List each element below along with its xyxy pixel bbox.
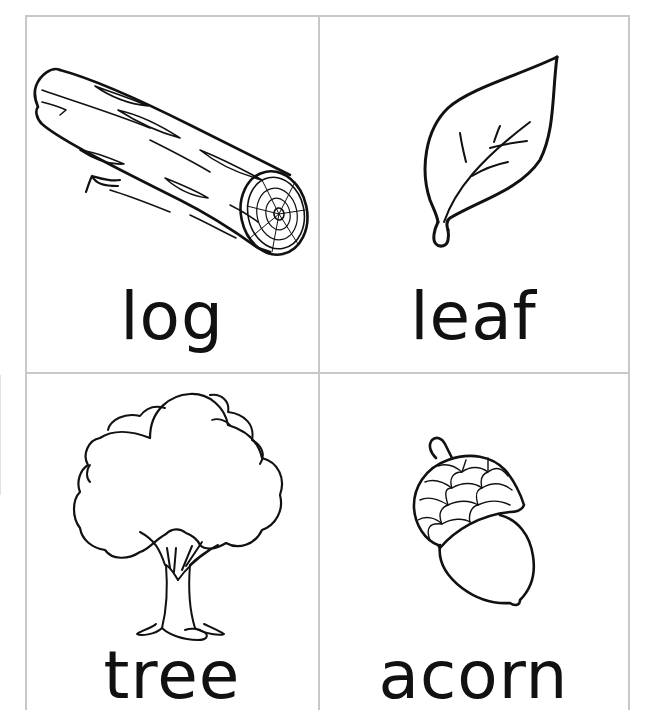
grid-border-right: [628, 15, 630, 710]
flashcard-word-log: log: [26, 284, 318, 350]
log-icon: [26, 16, 318, 276]
flashcard-tree: tree: [26, 373, 318, 710]
flashcard-leaf: leaf: [319, 16, 628, 372]
flashcard-sheet: log leaf: [0, 0, 645, 710]
tree-icon: [26, 373, 318, 643]
flashcard-word-leaf: leaf: [319, 284, 628, 350]
flashcard-acorn: acorn: [319, 373, 628, 710]
leaf-icon: [319, 16, 628, 276]
flashcard-word-acorn: acorn: [319, 643, 628, 709]
flashcard-log: log: [26, 16, 318, 372]
page-edge-mark: [0, 375, 1, 495]
acorn-icon: [319, 373, 628, 633]
flashcard-word-tree: tree: [26, 643, 318, 709]
